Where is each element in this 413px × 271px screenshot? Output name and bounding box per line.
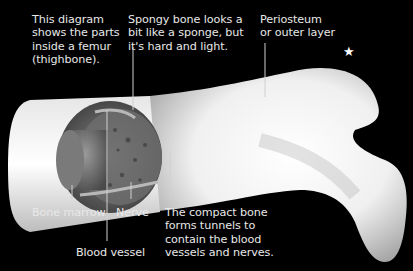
intro-text: This diagram shows the parts inside a fe… <box>32 13 120 67</box>
blood-vessel-label: Blood vessel <box>76 246 145 259</box>
nerve-label: Nerve <box>116 206 149 219</box>
bone-marrow-shape <box>56 130 84 190</box>
periosteum-label: Periosteum or outer layer <box>260 13 335 40</box>
compact-bone-label: The compact bone forms tunnels to contai… <box>165 206 274 260</box>
spongy-bone-label: Spongy bone looks a bit like a sponge, b… <box>128 13 244 53</box>
bone-marrow-label: Bone marrow <box>32 206 105 219</box>
star-icon: ★ <box>343 45 355 58</box>
